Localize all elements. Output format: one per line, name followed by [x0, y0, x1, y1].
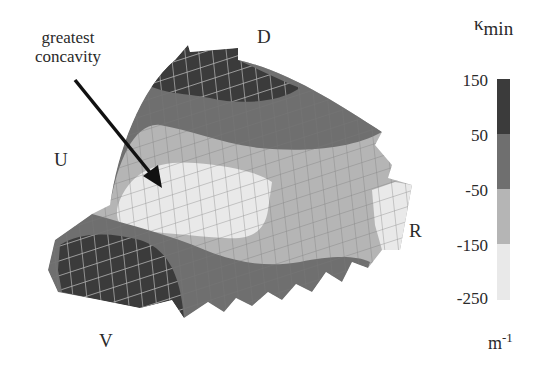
annotation-line-2: concavity — [13, 47, 123, 66]
colorbar-title: κmin — [474, 13, 513, 40]
colorbar-bin-2 — [497, 134, 510, 189]
colorbar-tick: -250 — [428, 290, 488, 307]
colorbar-bin-1 — [497, 79, 510, 134]
colorbar — [497, 79, 510, 300]
unit-exponent: -1 — [502, 330, 513, 345]
annotation-line-1: greatest — [13, 28, 123, 47]
colorbar-bin-4 — [497, 244, 510, 300]
colorbar-unit: m-1 — [488, 330, 513, 354]
unit-base: m — [488, 333, 502, 353]
colorbar-bin-3 — [497, 189, 510, 244]
colorbar-tick: -50 — [428, 182, 488, 199]
colorbar-tick: 150 — [428, 72, 488, 89]
label-v: V — [99, 331, 113, 350]
label-u: U — [54, 150, 68, 169]
colorbar-tick: 50 — [428, 127, 488, 144]
label-r: R — [409, 221, 422, 240]
label-d: D — [257, 27, 271, 46]
colorbar-tick: -150 — [428, 237, 488, 254]
surface-bands — [40, 40, 420, 330]
annotation-text: greatest concavity — [13, 28, 123, 66]
colorbar-symbol: κ — [474, 13, 484, 34]
colorbar-subscript: min — [484, 18, 514, 39]
